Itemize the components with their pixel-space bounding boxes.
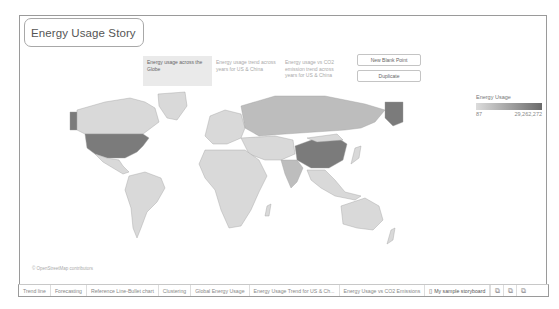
russia-shape[interactable] (241, 96, 385, 136)
tab-forecasting[interactable]: Forecasting (51, 285, 87, 296)
india-shape[interactable] (281, 160, 303, 188)
tab-global-energy-usage[interactable]: Global Energy Usage (191, 285, 249, 296)
map-attribution[interactable]: © OpenStreetMap contributors (32, 266, 93, 271)
new-worksheet-icon[interactable]: ⧉ (490, 285, 503, 296)
southeast-asia-shape[interactable] (307, 170, 361, 200)
legend-title: Energy Usage (476, 94, 542, 100)
story-icon: ▯ (429, 287, 432, 294)
story-point-1[interactable]: Energy usage across the Globe (143, 56, 212, 86)
color-legend: Energy Usage 87 29,262,272 (476, 94, 542, 117)
story-title-box[interactable]: Energy Usage Story (24, 18, 144, 47)
duplicate-button[interactable]: Duplicate (357, 70, 421, 82)
tab-trend-line[interactable]: Trend line (19, 285, 51, 296)
tab-energy-usage-trend[interactable]: Energy Usage Trend for US & Ch... (250, 285, 340, 296)
world-map[interactable] (45, 88, 455, 263)
new-story-icon[interactable]: ⧉ (516, 285, 529, 296)
story-title: Energy Usage Story (31, 27, 136, 39)
legend-max: 29,262,272 (514, 111, 542, 117)
story-frame: Energy Usage Story Energy usage across t… (19, 15, 547, 285)
canada-shape[interactable] (77, 98, 159, 134)
greenland-shape[interactable] (158, 92, 187, 120)
japan-shape[interactable] (351, 146, 361, 164)
tab-label: My sample storyboard (434, 288, 485, 294)
legend-color-ramp (476, 103, 542, 110)
story-point-3[interactable]: Energy usage vs CO2 emission trend acros… (281, 56, 350, 86)
tab-my-sample-storyboard[interactable]: ▯ My sample storyboard (425, 285, 490, 296)
legend-min: 87 (476, 111, 482, 117)
tab-energy-vs-co2[interactable]: Energy Usage vs CO2 Emissions (340, 285, 426, 296)
story-point-2[interactable]: Energy usage trend across years for US &… (212, 56, 281, 86)
africa-shape[interactable] (199, 150, 267, 228)
tab-clustering[interactable]: Clustering (159, 285, 191, 296)
sheet-tab-bar: Trend line Forecasting Reference Line-Bu… (18, 284, 549, 297)
story-navigator: Energy usage across the Globe Energy usa… (143, 56, 350, 86)
story-point-actions: New Blank Point Duplicate (357, 54, 421, 82)
alaska-shape[interactable] (70, 112, 77, 130)
madagascar-shape[interactable] (265, 204, 271, 216)
south-america-shape[interactable] (125, 172, 165, 238)
australia-shape[interactable] (341, 198, 383, 230)
new-dashboard-icon[interactable]: ⧉ (503, 285, 516, 296)
europe-shape[interactable] (205, 110, 245, 144)
new-zealand-shape[interactable] (387, 228, 395, 244)
far-east-shape[interactable] (385, 102, 403, 126)
usa-shape[interactable] (85, 134, 149, 158)
new-blank-point-button[interactable]: New Blank Point (357, 54, 421, 66)
tab-reference-line-bullet-chart[interactable]: Reference Line-Bullet chart (87, 285, 159, 296)
